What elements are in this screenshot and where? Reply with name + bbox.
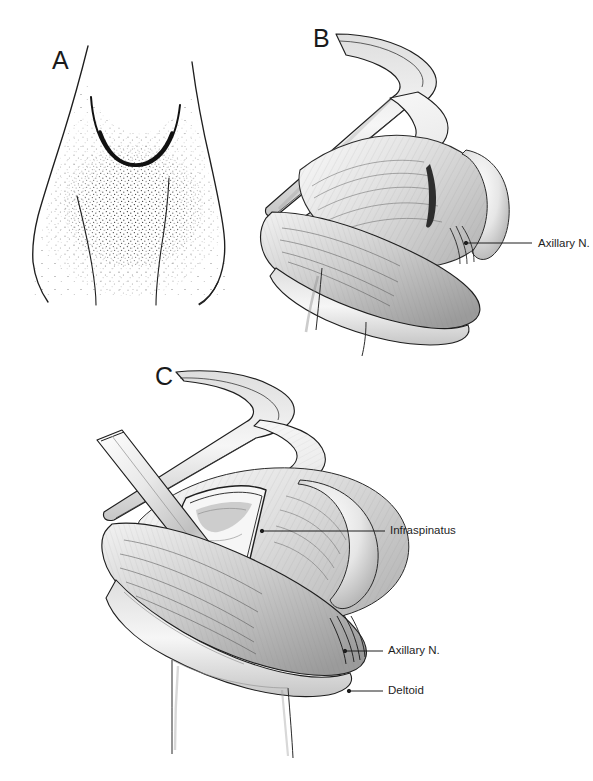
figure-artwork	[0, 0, 593, 781]
label-deltoid-panel-c: Deltoid	[388, 685, 424, 697]
surgical-figure: A B C Axillary N. Infraspinatus Axillary…	[0, 0, 593, 781]
label-axillary-nerve-panel-c: Axillary N.	[388, 645, 440, 657]
panel-letter-a: A	[52, 48, 69, 73]
panel-letter-c: C	[155, 364, 174, 389]
label-axillary-nerve-panel-b: Axillary N.	[538, 238, 590, 250]
label-infraspinatus-panel-c: Infraspinatus	[390, 525, 456, 537]
panel-letter-b: B	[313, 26, 330, 51]
